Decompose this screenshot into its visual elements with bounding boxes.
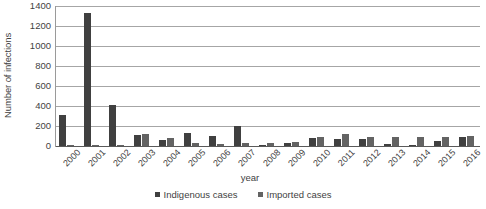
x-axis-tick-label: 2008 xyxy=(261,148,282,169)
bar-group xyxy=(206,6,231,146)
y-axis-tick-label: 200 xyxy=(35,121,51,131)
x-axis-tick-label: 2003 xyxy=(136,148,157,169)
x-axis-tick-labels: 2000200120022003200420052006200720082009… xyxy=(55,148,480,172)
x-axis-tick-label: 2007 xyxy=(236,148,257,169)
bar-group xyxy=(156,6,181,146)
bar xyxy=(467,136,474,146)
plot-area xyxy=(55,6,480,147)
bar xyxy=(309,138,316,147)
x-axis-tick-label: 2012 xyxy=(361,148,382,169)
bar-group xyxy=(56,6,81,146)
y-axis-tick-label: 1400 xyxy=(30,1,51,11)
bar xyxy=(84,13,91,146)
bar-group xyxy=(81,6,106,146)
y-axis-tick-label: 1000 xyxy=(30,41,51,51)
x-axis-tick-label: 2002 xyxy=(111,148,132,169)
bar-group xyxy=(456,6,481,146)
bar-group xyxy=(331,6,356,146)
x-axis-tick-label: 2009 xyxy=(286,148,307,169)
x-axis-title: year xyxy=(0,172,486,183)
legend-label: Imported cases xyxy=(267,189,332,200)
legend-swatch-icon xyxy=(155,192,160,197)
bar-group xyxy=(431,6,456,146)
x-axis-tick-label: 2016 xyxy=(461,148,482,169)
y-axis-tick-label: 600 xyxy=(35,81,51,91)
x-axis-tick-label: 2010 xyxy=(311,148,332,169)
bar xyxy=(392,137,399,146)
x-axis-tick-label: 2000 xyxy=(61,148,82,169)
x-axis-tick-label: 2004 xyxy=(161,148,182,169)
x-axis-tick-label: 2013 xyxy=(386,148,407,169)
x-axis-tick-label: 2015 xyxy=(436,148,457,169)
bar xyxy=(142,134,149,147)
bar xyxy=(184,133,191,147)
x-axis-tick-label: 2001 xyxy=(86,148,107,169)
bar-series-container xyxy=(56,6,480,147)
bar xyxy=(167,138,174,147)
bar xyxy=(59,115,66,146)
bar-group xyxy=(131,6,156,146)
y-axis-tick-label: 1200 xyxy=(30,21,51,31)
bar-group xyxy=(406,6,431,146)
bar xyxy=(342,134,349,146)
y-axis-tick-label: 800 xyxy=(35,61,51,71)
bar xyxy=(234,126,241,146)
x-axis-title-text: year xyxy=(241,172,259,183)
bar xyxy=(134,135,141,146)
y-axis-tick-label: 400 xyxy=(35,101,51,111)
y-axis-tick-labels: 0200400600800100012001400 xyxy=(16,0,53,148)
chart-legend: Indigenous casesImported cases xyxy=(0,189,486,200)
legend-label: Indigenous cases xyxy=(164,189,238,200)
bar-group xyxy=(306,6,331,146)
x-axis-tick-label: 2005 xyxy=(186,148,207,169)
x-axis-line xyxy=(56,146,480,147)
bar xyxy=(459,137,466,147)
bar-group xyxy=(381,6,406,146)
bar-group xyxy=(231,6,256,146)
y-axis-title: Number of infections xyxy=(0,0,16,150)
y-axis-tick-label: 0 xyxy=(46,141,51,151)
bar xyxy=(359,139,366,146)
bar xyxy=(109,105,116,147)
y-axis-title-text: Number of infections xyxy=(3,32,14,117)
bar xyxy=(334,139,341,147)
bar xyxy=(209,136,216,146)
legend-item-indigenous[interactable]: Indigenous cases xyxy=(155,189,238,200)
x-axis-tick-label: 2014 xyxy=(411,148,432,169)
bar xyxy=(367,137,374,147)
x-axis-tick-label: 2011 xyxy=(336,148,356,168)
bar xyxy=(317,137,324,147)
bar-chart-figure: Number of infections 0200400600800100012… xyxy=(0,0,486,209)
bar-group xyxy=(181,6,206,146)
legend-item-imported[interactable]: Imported cases xyxy=(258,189,332,200)
bar-group xyxy=(281,6,306,146)
bar xyxy=(442,137,449,146)
bar-group xyxy=(356,6,381,146)
x-axis-tick-label: 2006 xyxy=(211,148,232,169)
legend-swatch-icon xyxy=(258,192,263,197)
bar xyxy=(417,137,424,147)
bar-group xyxy=(256,6,281,146)
bar-group xyxy=(106,6,131,146)
